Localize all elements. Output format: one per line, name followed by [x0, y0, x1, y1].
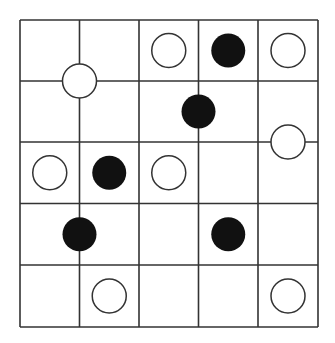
white-circle	[33, 156, 67, 190]
white-circle	[63, 64, 97, 98]
white-circle	[92, 279, 126, 313]
black-circle	[211, 217, 245, 251]
white-circle	[271, 34, 305, 68]
white-circle	[152, 34, 186, 68]
black-circle	[63, 217, 97, 251]
stones-layer	[33, 34, 305, 314]
white-circle	[152, 156, 186, 190]
white-circle	[271, 279, 305, 313]
black-circle	[182, 95, 216, 129]
black-circle	[211, 34, 245, 68]
black-circle	[92, 156, 126, 190]
white-circle	[271, 125, 305, 159]
grid-board	[0, 0, 335, 343]
